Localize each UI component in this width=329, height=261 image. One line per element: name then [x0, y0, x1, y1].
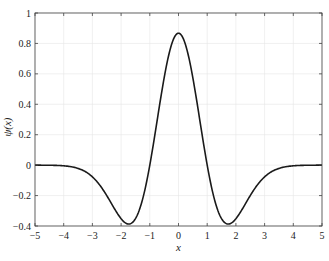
y-tick-label: 0.6 — [19, 68, 32, 79]
x-tick-label: −2 — [116, 230, 127, 241]
x-tick-label: −4 — [58, 230, 69, 241]
y-tick-label: 0.2 — [19, 129, 32, 140]
x-tick-label: 4 — [291, 230, 296, 241]
y-tick-label: −0.4 — [13, 221, 31, 232]
y-tick-label: 0 — [26, 160, 31, 171]
x-tick-label: 3 — [262, 230, 267, 241]
chart: −5−4−3−2−1012345 −0.4−0.200.20.40.60.81 … — [0, 0, 329, 261]
x-tick-label: −3 — [87, 230, 98, 241]
y-tick-labels: −0.4−0.200.20.40.60.81 — [13, 8, 31, 232]
x-tick-label: 5 — [320, 230, 325, 241]
y-tick-label: 1 — [26, 8, 31, 19]
x-axis-label: x — [175, 241, 181, 253]
y-tick-label: 0.8 — [19, 38, 32, 49]
y-tick-label: 0.4 — [19, 99, 32, 110]
y-axis-label: ψ(x) — [1, 117, 14, 136]
grid — [35, 13, 322, 226]
x-tick-label: 2 — [233, 230, 238, 241]
x-tick-label: 1 — [205, 230, 210, 241]
x-tick-label: −5 — [30, 230, 41, 241]
x-tick-label: 0 — [176, 230, 181, 241]
y-tick-label: −0.2 — [13, 190, 31, 201]
x-tick-label: −1 — [144, 230, 155, 241]
x-tick-labels: −5−4−3−2−1012345 — [30, 230, 325, 241]
